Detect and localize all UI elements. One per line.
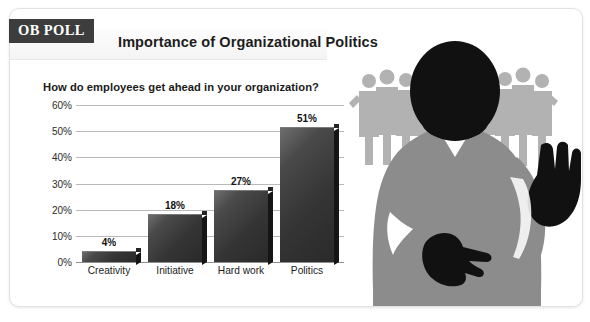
page-title: Importance of Organizational Politics bbox=[118, 34, 378, 50]
bar-value-label: 4% bbox=[102, 237, 116, 248]
x-tick-label-initiative: Initiative bbox=[156, 265, 193, 276]
y-tick-label: 10% bbox=[52, 231, 72, 242]
y-tick-label: 30% bbox=[52, 179, 72, 190]
head-icon bbox=[410, 41, 500, 141]
bar-3d-top bbox=[334, 124, 339, 128]
plot-area: 4% Creativity 18% bbox=[76, 105, 344, 263]
bar-3d-top bbox=[136, 248, 141, 252]
poll-figure: Importance of Organizational Politics Ho… bbox=[0, 0, 590, 322]
ob-poll-badge: OB POLL bbox=[9, 19, 94, 43]
y-axis: 60% 50% 40% 30% 20% 10% 0% bbox=[34, 105, 72, 263]
bar-group-hard-work[interactable]: 27% Hard work bbox=[214, 105, 268, 262]
businessman-silhouette-icon bbox=[327, 29, 582, 306]
bar-value-label: 18% bbox=[165, 200, 185, 211]
bar-creativity[interactable] bbox=[82, 251, 136, 262]
x-axis-line bbox=[76, 262, 344, 263]
bar-3d-top bbox=[202, 211, 207, 215]
bar-3d-top bbox=[268, 187, 273, 191]
bar-chart: 60% 50% 40% 30% 20% 10% 0% 4% bbox=[34, 105, 354, 285]
bar-group-creativity[interactable]: 4% Creativity bbox=[82, 105, 136, 262]
bar-3d-side bbox=[334, 128, 339, 265]
x-tick-label-politics: Politics bbox=[291, 265, 323, 276]
y-tick-label: 60% bbox=[52, 100, 72, 111]
y-tick-label: 20% bbox=[52, 205, 72, 216]
bar-hard-work[interactable] bbox=[214, 190, 268, 262]
bar-group-initiative[interactable]: 18% Initiative bbox=[148, 105, 202, 262]
y-tick-label: 0% bbox=[58, 257, 72, 268]
bar-initiative[interactable] bbox=[148, 214, 202, 262]
bar-3d-side bbox=[136, 252, 141, 265]
y-tick-label: 50% bbox=[52, 126, 72, 137]
x-tick-label-creativity: Creativity bbox=[88, 265, 130, 276]
bar-3d-side bbox=[202, 215, 207, 265]
y-tick-label: 40% bbox=[52, 152, 72, 163]
bar-3d-side bbox=[268, 191, 273, 265]
businessman-illustration bbox=[327, 29, 582, 306]
bar-series: 4% Creativity 18% bbox=[76, 105, 344, 262]
x-tick-label-hard-work: Hard work bbox=[218, 265, 264, 276]
bar-value-label: 51% bbox=[297, 113, 317, 124]
bar-politics[interactable] bbox=[280, 127, 334, 262]
poll-card: Importance of Organizational Politics Ho… bbox=[9, 8, 583, 307]
bar-group-politics[interactable]: 51% Politics bbox=[280, 105, 334, 262]
poll-question: How do employees get ahead in your organ… bbox=[43, 81, 319, 93]
bar-value-label: 27% bbox=[231, 176, 251, 187]
